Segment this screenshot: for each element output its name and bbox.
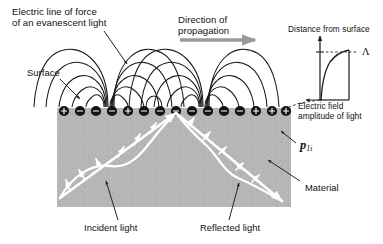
polarization-subscript: 1i — [306, 144, 312, 153]
label-direction-of-propagation: Direction of propagation — [178, 14, 229, 37]
label-incident-light: Incident light — [84, 222, 137, 233]
leader-electric-line — [104, 31, 127, 64]
material-block — [57, 108, 291, 207]
electric-field-lines — [34, 49, 279, 107]
inset-decay-plot — [289, 36, 356, 107]
label-polarization-vector: p1i — [300, 140, 313, 154]
inset-decay-curve — [321, 50, 349, 100]
label-material: Material — [305, 182, 339, 193]
label-distance-from-surface: Distance from surface — [288, 24, 370, 34]
label-reflected-light: Reflected light — [200, 222, 260, 233]
label-decay-length-lambda: Λ — [362, 46, 370, 57]
figure-canvas: Electric line of force of an evanescent … — [0, 0, 383, 244]
label-electric-field-amplitude: Electric field amplitude of light — [298, 101, 362, 121]
label-electric-line-of-force: Electric line of force of an evanescent … — [12, 6, 106, 29]
label-surface: Surface — [27, 67, 60, 78]
